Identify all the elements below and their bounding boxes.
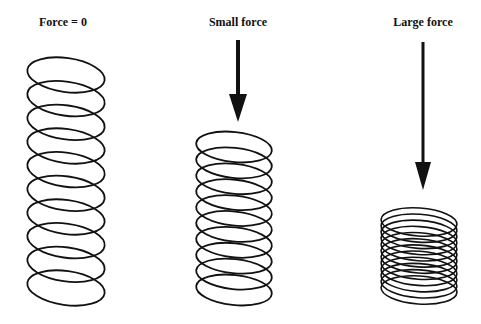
spring-diagram: Force = 0 Small force Large force xyxy=(0,0,481,324)
diagram-canvas xyxy=(0,0,481,324)
label-force-zero: Force = 0 xyxy=(39,15,87,30)
small-force-arrow-icon xyxy=(229,40,247,122)
spring-relaxed xyxy=(25,53,107,311)
spring-small-compression xyxy=(195,128,274,309)
label-large-force: Large force xyxy=(393,15,452,30)
large-force-arrow-icon xyxy=(415,42,431,190)
label-small-force: Small force xyxy=(209,15,267,30)
spring-large-compression xyxy=(380,205,458,306)
